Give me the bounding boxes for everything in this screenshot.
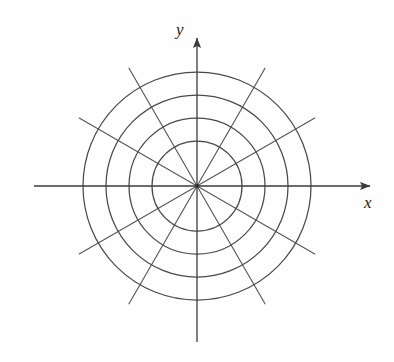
y-axis-label: y [176,21,184,38]
x-axis-label: x [364,194,372,211]
polar-grid-figure: y x [0,0,394,362]
polar-grid-svg [0,0,394,362]
origin-point [195,184,199,188]
